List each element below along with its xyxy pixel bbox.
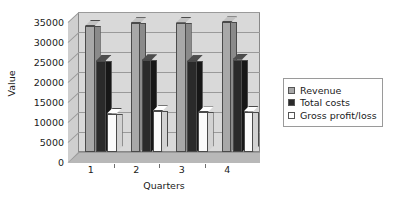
bar-side-face bbox=[162, 111, 168, 152]
y-axis-title: Value bbox=[6, 54, 17, 114]
x-axis-tick-mark bbox=[114, 164, 115, 168]
x-axis-tick-mark bbox=[159, 164, 160, 168]
y-axis-tick-label: 35000 bbox=[34, 17, 64, 28]
bar-front-face bbox=[233, 60, 243, 152]
y-axis-tick-label: 15000 bbox=[34, 97, 64, 108]
bar-front-face bbox=[131, 23, 141, 152]
bar bbox=[153, 111, 163, 152]
bar-front-face bbox=[153, 111, 163, 152]
revenue-swatch-icon bbox=[288, 87, 295, 94]
bar bbox=[142, 60, 152, 152]
y-axis-tick-label: 30000 bbox=[34, 37, 64, 48]
bar bbox=[244, 112, 254, 152]
bar bbox=[96, 61, 106, 152]
bar-front-face bbox=[187, 61, 197, 152]
bar bbox=[187, 61, 197, 152]
x-axis-tick-labels: 1234 bbox=[68, 164, 260, 180]
bar-front-face bbox=[85, 26, 95, 152]
x-axis-tick-label: 3 bbox=[179, 164, 185, 175]
bar bbox=[131, 23, 141, 152]
legend-item-revenue: Revenue bbox=[288, 85, 377, 96]
x-axis-tick-label: 2 bbox=[133, 164, 139, 175]
bar bbox=[233, 60, 243, 152]
y-axis-tick-labels: 35000300002500020000150001000050000 bbox=[24, 0, 64, 207]
chart-legend: Revenue Total costs Gross profit/loss bbox=[283, 78, 383, 127]
bar bbox=[176, 23, 186, 152]
bar-front-face bbox=[244, 112, 254, 152]
bar-front-face bbox=[222, 22, 232, 152]
bar-front-face bbox=[96, 61, 106, 152]
gross-profit-swatch-icon bbox=[288, 112, 295, 119]
y-axis-tick-label: 20000 bbox=[34, 77, 64, 88]
y-axis-tick-label: 0 bbox=[58, 157, 64, 168]
plot-area bbox=[68, 12, 260, 162]
x-axis-title: Quarters bbox=[68, 180, 260, 191]
bar-side-face bbox=[117, 114, 123, 152]
bar bbox=[198, 112, 208, 152]
gridline bbox=[78, 152, 260, 153]
bar-front-face bbox=[176, 23, 186, 152]
plot-floor bbox=[68, 152, 260, 163]
bar-chart: Value 3500030000250002000015000100005000… bbox=[0, 0, 404, 207]
y-axis-tick-label: 5000 bbox=[40, 137, 64, 148]
gridline bbox=[78, 12, 260, 13]
bar-side-face bbox=[253, 112, 259, 152]
legend-label-revenue: Revenue bbox=[300, 85, 341, 96]
y-axis-tick-label: 25000 bbox=[34, 57, 64, 68]
total-costs-swatch-icon bbox=[288, 99, 295, 106]
bar-front-face bbox=[198, 112, 208, 152]
x-axis-tick-label: 4 bbox=[224, 164, 230, 175]
bar-front-face bbox=[142, 60, 152, 152]
bar-side-face bbox=[208, 112, 214, 152]
bar bbox=[222, 22, 232, 152]
bar bbox=[85, 26, 95, 152]
x-axis-tick-label: 1 bbox=[88, 164, 94, 175]
legend-label-gross-profit: Gross profit/loss bbox=[300, 110, 377, 121]
legend-item-total-costs: Total costs bbox=[288, 97, 377, 108]
legend-item-gross-profit: Gross profit/loss bbox=[288, 110, 377, 121]
y-axis-tick-label: 10000 bbox=[34, 117, 64, 128]
x-axis-tick-mark bbox=[205, 164, 206, 168]
bar bbox=[107, 114, 117, 152]
legend-label-total-costs: Total costs bbox=[300, 97, 350, 108]
bar-front-face bbox=[107, 114, 117, 152]
